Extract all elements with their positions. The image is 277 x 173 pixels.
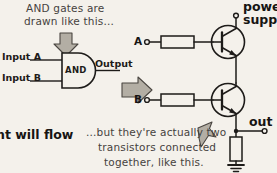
base-resistor-b: [161, 94, 194, 106]
output-terminal-node: [262, 129, 267, 134]
caption-bottom-line1: ...but they're actually two: [86, 127, 226, 139]
caption-bottom-line2: transistors connected: [98, 142, 216, 154]
circuit-output-label: out: [249, 115, 272, 129]
caption-top-line1: AND gates are: [26, 3, 105, 15]
circuit-terminal-b-label: B: [134, 94, 142, 106]
caption-left-clipped: nt will flow: [0, 128, 73, 142]
caption-bottom-line3: together, like this.: [104, 157, 204, 169]
gate-input-b-label: Input B: [2, 73, 41, 84]
power-supply-label-line2: supply: [243, 13, 277, 27]
figure-canvas: AND gates are drawn like this... Input A…: [0, 0, 277, 173]
pulldown-resistor: [230, 137, 242, 161]
gate-input-a-label: Input A: [2, 52, 41, 63]
gate-output-label: Output: [95, 59, 133, 70]
terminal-b-node: [145, 98, 150, 103]
power-supply-node: [234, 13, 239, 18]
caption-top-line2: drawn like this...: [24, 16, 114, 28]
circuit-terminal-a-label: A: [134, 36, 142, 48]
ground-symbol: [228, 165, 244, 172]
terminal-a-node: [145, 40, 150, 45]
base-resistor-a: [161, 36, 194, 48]
gate-body-label: AND: [65, 66, 87, 76]
